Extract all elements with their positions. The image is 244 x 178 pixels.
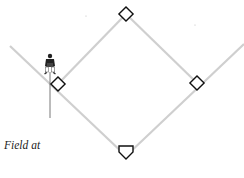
home-plate: [119, 146, 133, 159]
baseball-diagram: Field at the edge of the outfield grass …: [0, 0, 244, 178]
third-to-second-line: [58, 14, 126, 84]
fielder-figure-icon: [45, 54, 56, 74]
second-to-first-line: [126, 14, 197, 83]
caption-line: Field at: [4, 139, 87, 152]
caption: Field at the edge of the outfield grass …: [4, 113, 87, 178]
right-foul-line: [126, 44, 244, 156]
